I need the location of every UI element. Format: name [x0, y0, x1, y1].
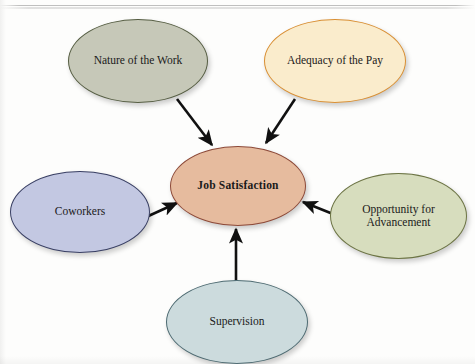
node-label-job-satisfaction: Job Satisfaction	[189, 179, 286, 192]
node-job-satisfaction[interactable]: Job Satisfaction	[170, 146, 306, 226]
node-label-nature-of-the-work: Nature of the Work	[86, 54, 191, 67]
concept-map-figure: Nature of the Work Adequacy of the Pay C…	[0, 0, 475, 364]
node-supervision[interactable]: Supervision	[166, 280, 308, 364]
arrow-nature-to-center	[177, 99, 212, 145]
arrow-pay-to-center	[266, 99, 295, 143]
node-opportunity-for-advancement[interactable]: Opportunity for Advancement	[330, 173, 467, 259]
node-label-coworkers: Coworkers	[47, 205, 113, 218]
node-label-opportunity-for-advancement: Opportunity for Advancement	[354, 203, 443, 229]
node-adequacy-of-the-pay[interactable]: Adequacy of the Pay	[264, 19, 406, 103]
node-label-line-1: Opportunity for	[362, 203, 435, 215]
node-coworkers[interactable]: Coworkers	[10, 171, 150, 253]
node-nature-of-the-work[interactable]: Nature of the Work	[68, 19, 208, 103]
node-label-adequacy-of-the-pay: Adequacy of the Pay	[279, 54, 391, 67]
node-label-supervision: Supervision	[202, 315, 273, 328]
node-label-line-2: Advancement	[367, 216, 431, 228]
